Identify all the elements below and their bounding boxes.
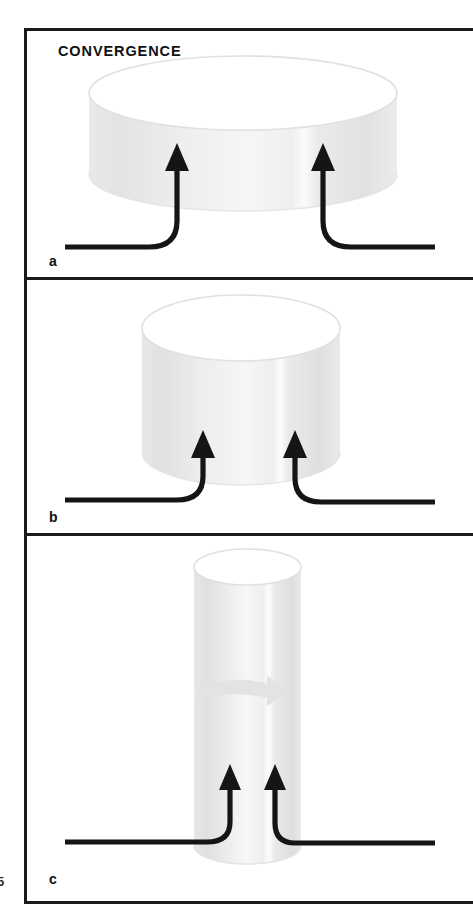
panel-c-artwork bbox=[27, 536, 473, 901]
panel-label-a: a bbox=[49, 253, 57, 269]
page-number: 5 bbox=[0, 874, 5, 892]
convergence-figure: 5 CONVERGENCE bbox=[0, 0, 473, 923]
panel-b: b bbox=[27, 280, 473, 533]
frame-bottom-border bbox=[24, 901, 473, 904]
panel-a-artwork bbox=[27, 31, 473, 277]
cylinder-wide-flat-shape bbox=[89, 56, 397, 211]
cylinder-medium-shape bbox=[142, 295, 340, 485]
panel-a: CONVERGENCE bbox=[27, 31, 473, 277]
panel-b-artwork bbox=[27, 280, 473, 533]
panel-label-c: c bbox=[49, 871, 57, 887]
panel-c: c bbox=[27, 536, 473, 901]
cylinder-tall-narrow-shape bbox=[194, 549, 301, 864]
panel-label-b: b bbox=[49, 509, 58, 525]
